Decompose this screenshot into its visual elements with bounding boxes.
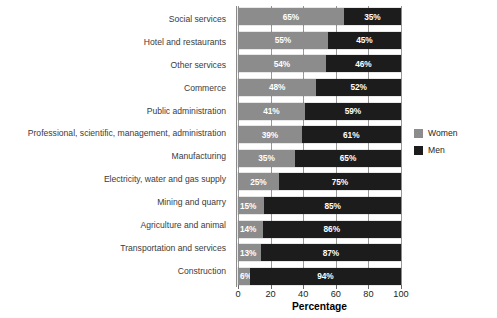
women-segment: 25% xyxy=(238,173,279,190)
bar-row: 25%75% xyxy=(238,173,401,190)
category-label: Mining and quarry xyxy=(0,191,232,214)
x-tick-label: 0 xyxy=(235,289,240,299)
women-segment: 41% xyxy=(238,103,305,120)
men-segment: 35% xyxy=(344,8,401,25)
men-segment: 61% xyxy=(302,126,401,143)
segment-value-label: 15% xyxy=(240,201,256,211)
bar-row: 55%45% xyxy=(238,32,401,49)
men-segment: 46% xyxy=(326,55,401,72)
women-segment: 13% xyxy=(238,244,261,261)
segment-value-label: 86% xyxy=(324,224,340,234)
men-segment: 94% xyxy=(250,268,401,285)
women-segment: 35% xyxy=(238,150,295,167)
category-label: Public administration xyxy=(0,100,232,123)
category-label: Other services xyxy=(0,54,232,77)
segment-value-label: 94% xyxy=(317,271,333,281)
chart-legend: WomenMen xyxy=(414,128,457,162)
legend-item: Women xyxy=(414,128,457,138)
segment-value-label: 13% xyxy=(240,248,256,258)
women-segment: 55% xyxy=(238,32,328,49)
segment-value-label: 61% xyxy=(343,130,359,140)
women-segment: 65% xyxy=(238,8,344,25)
legend-label: Men xyxy=(428,145,445,155)
stacked-bar-chart: Social servicesHotel and restaurantsOthe… xyxy=(0,0,497,318)
x-tick-label: 80 xyxy=(363,289,373,299)
x-tick-label: 100 xyxy=(393,289,408,299)
category-label: Hotel and restaurants xyxy=(0,31,232,54)
bar-row: 54%46% xyxy=(238,55,401,72)
segment-value-label: 65% xyxy=(340,153,356,163)
bar-row: 41%59% xyxy=(238,103,401,120)
segment-value-label: 75% xyxy=(332,177,348,187)
category-label: Commerce xyxy=(0,77,232,100)
men-segment: 59% xyxy=(305,103,401,120)
category-label: Social services xyxy=(0,8,232,31)
segment-value-label: 52% xyxy=(350,82,366,92)
bar-row: 35%65% xyxy=(238,150,401,167)
segment-value-label: 35% xyxy=(258,153,274,163)
category-label: Manufacturing xyxy=(0,145,232,168)
bar-row: 65%35% xyxy=(238,8,401,25)
gridline xyxy=(401,6,402,287)
plot-area: 65%35%55%45%54%46%48%52%41%59%39%61%35%6… xyxy=(238,8,401,285)
men-segment: 65% xyxy=(295,150,401,167)
women-segment: 14% xyxy=(238,221,263,238)
bar-row: 6%94% xyxy=(238,268,401,285)
men-swatch-icon xyxy=(414,146,423,155)
segment-value-label: 54% xyxy=(274,59,290,69)
segment-value-label: 65% xyxy=(283,12,299,22)
segment-value-label: 48% xyxy=(269,82,285,92)
segment-value-label: 55% xyxy=(275,35,291,45)
women-segment: 48% xyxy=(238,79,316,96)
segment-value-label: 45% xyxy=(356,35,372,45)
men-segment: 45% xyxy=(328,32,401,49)
women-segment: 39% xyxy=(238,126,302,143)
legend-label: Women xyxy=(428,128,457,138)
segment-value-label: 85% xyxy=(324,201,340,211)
category-label: Electricity, water and gas supply xyxy=(0,168,232,191)
men-segment: 87% xyxy=(261,244,401,261)
bar-row: 13%87% xyxy=(238,244,401,261)
x-tick-label: 60 xyxy=(331,289,341,299)
category-label: Construction xyxy=(0,260,232,283)
bar-row: 39%61% xyxy=(238,126,401,143)
men-segment: 52% xyxy=(316,79,401,96)
x-tick-label: 40 xyxy=(298,289,308,299)
women-segment: 54% xyxy=(238,55,326,72)
men-segment: 86% xyxy=(263,221,401,238)
segment-value-label: 46% xyxy=(355,59,371,69)
category-axis-labels: Social servicesHotel and restaurantsOthe… xyxy=(0,8,232,283)
men-segment: 75% xyxy=(279,173,401,190)
segment-value-label: 6% xyxy=(240,271,250,281)
category-label: Professional, scientific, management, ad… xyxy=(0,122,232,145)
x-axis-title: Percentage xyxy=(238,301,401,312)
category-label: Agriculture and animal xyxy=(0,214,232,237)
segment-value-label: 59% xyxy=(345,106,361,116)
legend-item: Men xyxy=(414,145,457,155)
segment-value-label: 25% xyxy=(250,177,266,187)
women-swatch-icon xyxy=(414,129,423,138)
men-segment: 85% xyxy=(264,197,401,214)
segment-value-label: 41% xyxy=(263,106,279,116)
bar-row: 15%85% xyxy=(238,197,401,214)
women-segment: 15% xyxy=(238,197,264,214)
bar-rows: 65%35%55%45%54%46%48%52%41%59%39%61%35%6… xyxy=(238,8,401,285)
y-axis-line xyxy=(236,6,237,287)
women-segment: 6% xyxy=(238,268,250,285)
bar-row: 14%86% xyxy=(238,221,401,238)
bar-row: 48%52% xyxy=(238,79,401,96)
segment-value-label: 14% xyxy=(240,224,256,234)
segment-value-label: 39% xyxy=(262,130,278,140)
segment-value-label: 87% xyxy=(323,248,339,258)
segment-value-label: 35% xyxy=(364,12,380,22)
x-tick-label: 20 xyxy=(265,289,275,299)
category-label: Transportation and services xyxy=(0,237,232,260)
